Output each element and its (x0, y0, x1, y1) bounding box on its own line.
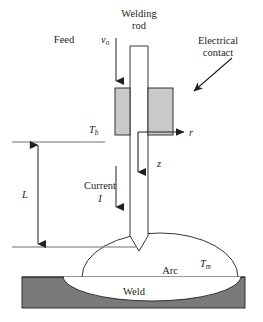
current-label: Current (84, 180, 116, 191)
base-temperature-symbol: T (89, 124, 95, 135)
contact-block-right (148, 88, 173, 135)
welding-schematic-figure: Feed vo Welding rod Electrical contact T… (0, 0, 263, 322)
welding-rod-group (130, 46, 148, 251)
weld-pool-group (63, 251, 241, 301)
electrical-contact-pointer-arrow (194, 58, 232, 91)
melt-temperature-label: Tm (200, 258, 211, 270)
welding-rod-label-line1: Welding (121, 8, 156, 19)
weld-label: Weld (123, 286, 145, 297)
radial-axis-label: r (189, 127, 193, 138)
feed-velocity-subscript: o (106, 39, 110, 47)
melt-temperature-subscript: m (206, 263, 211, 271)
current-symbol-label: I (98, 193, 102, 204)
electrical-contact-label-line1: Electrical (198, 35, 238, 46)
base-temperature-subscript: b (95, 129, 99, 137)
welding-rod-body (130, 46, 148, 251)
welding-rod-label-line2: rod (132, 20, 146, 31)
arc-label: Arc (162, 265, 178, 276)
axial-axis-label: z (157, 158, 161, 169)
feed-velocity-symbol: v (101, 34, 106, 45)
workpiece-group (22, 251, 245, 308)
electrical-contact-label-line2: contact (203, 47, 233, 58)
contact-block-left (115, 88, 130, 135)
feed-velocity-label: vo (101, 34, 109, 46)
length-label: L (22, 189, 28, 200)
melt-temperature-symbol: T (200, 258, 206, 269)
base-temperature-label: Tb (89, 124, 98, 136)
feed-label: Feed (54, 34, 74, 45)
weld-pool (63, 251, 241, 301)
